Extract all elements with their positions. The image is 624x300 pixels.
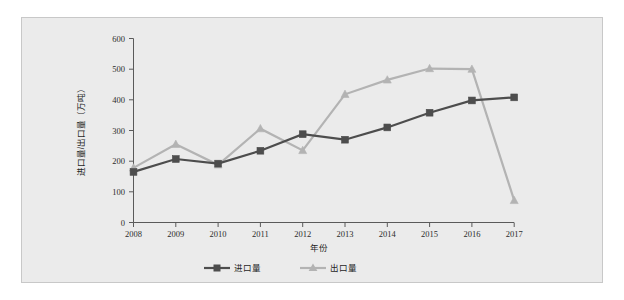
x-tick-label: 2010 (210, 229, 227, 239)
y-tick-label: 500 (112, 64, 125, 74)
y-tick-label: 100 (112, 187, 125, 197)
y-tick-label: 400 (112, 95, 125, 105)
y-tick-label: 200 (112, 156, 125, 166)
x-tick-label: 2014 (379, 229, 397, 239)
x-tick-label: 2016 (463, 229, 480, 239)
y-tick-label: 300 (112, 126, 125, 136)
import-line (134, 97, 515, 172)
series-import (130, 94, 517, 175)
import-data-point (172, 156, 179, 163)
y-tick-labels: 0 100 200 300 400 500 600 (112, 34, 125, 228)
import-data-point (384, 124, 391, 131)
x-tick-label: 2012 (294, 229, 311, 239)
line-chart-plot: 0 100 200 300 400 500 600 2008 2009 2010… (22, 18, 604, 284)
legend-marker-import (214, 265, 221, 272)
y-axis-title: 进口量/出口量（万吨） (76, 84, 86, 176)
x-axis-title: 年份 (310, 243, 328, 253)
x-tick-label: 2011 (252, 229, 269, 239)
x-tick-label: 2009 (167, 229, 184, 239)
export-markers (130, 64, 519, 203)
y-tick-label: 600 (112, 34, 125, 44)
import-data-point (257, 147, 264, 154)
chart-legend: 进口量 出口量 (204, 263, 357, 273)
import-data-point (130, 169, 137, 176)
series-export (130, 64, 519, 203)
export-data-point (172, 140, 180, 147)
axis-group (129, 39, 514, 228)
import-data-point (469, 97, 476, 104)
x-tick-label: 2008 (125, 229, 142, 239)
legend-label-export: 出口量 (330, 263, 357, 273)
x-tick-label: 2017 (506, 229, 523, 239)
x-axis-ticks (134, 223, 515, 228)
x-tick-label: 2013 (337, 229, 354, 239)
legend-label-import: 进口量 (234, 263, 261, 273)
y-axis-ticks (129, 39, 134, 223)
import-data-point (299, 131, 306, 138)
import-data-point (511, 94, 518, 101)
chart-figure: 0 100 200 300 400 500 600 2008 2009 2010… (21, 17, 603, 283)
import-markers (130, 94, 517, 175)
x-tick-labels: 2008 2009 2010 2011 2012 2013 2014 2015 … (125, 229, 523, 239)
import-data-point (215, 160, 222, 167)
y-tick-label: 0 (121, 218, 125, 228)
import-data-point (426, 109, 433, 116)
import-data-point (342, 136, 349, 143)
export-line (134, 69, 515, 201)
export-data-point (510, 196, 518, 203)
export-data-point (256, 124, 264, 131)
x-tick-label: 2015 (421, 229, 438, 239)
